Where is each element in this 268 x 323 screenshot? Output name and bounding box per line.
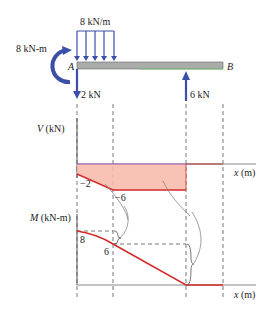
distributed-load — [74, 31, 117, 61]
moment-axis-var: M — [29, 212, 39, 223]
shear-axis-var: V — [37, 123, 45, 134]
moment-arrowhead-icon — [62, 46, 72, 55]
moment-axis-unit: (kN-m) — [41, 212, 71, 224]
shear-diagram — [77, 118, 256, 220]
moment-axis-label: M (kN-m) — [29, 212, 71, 224]
shear-moment-diagram: 8 kN/m A B 8 kN-m 2 kN 6 kN V (kN) x (m)… — [0, 0, 268, 323]
support-force-label: 6 kN — [190, 89, 210, 100]
beam — [77, 62, 223, 69]
distributed-load-label: 8 kN/m — [80, 16, 111, 27]
dashed-guides — [77, 104, 223, 300]
shear-x-var: x — [233, 167, 239, 178]
moment-x-label: x (m) — [233, 289, 255, 301]
beam-end-a-label: A — [67, 61, 75, 72]
moment-x-unit: (m) — [241, 289, 255, 301]
moment-x-var: x — [233, 289, 239, 300]
moment-value-6: 6 — [104, 246, 109, 257]
support-force-arrowhead-icon — [182, 71, 190, 80]
shear-x-label: x (m) — [233, 167, 255, 179]
force-a-arrowhead-icon — [73, 91, 81, 99]
shear-x-unit: (m) — [241, 167, 255, 179]
shear-value-minus-2: −2 — [80, 178, 91, 189]
beam-end-b-label: B — [227, 61, 233, 72]
moment-value-8: 8 — [80, 234, 85, 245]
shear-axis-unit: (kN) — [46, 123, 65, 135]
force-a-label: 2 kN — [81, 89, 101, 100]
shear-axis-label: V (kN) — [37, 123, 65, 135]
shear-value-minus-6: −6 — [115, 192, 126, 203]
moment-load-label: 8 kN-m — [16, 43, 47, 54]
